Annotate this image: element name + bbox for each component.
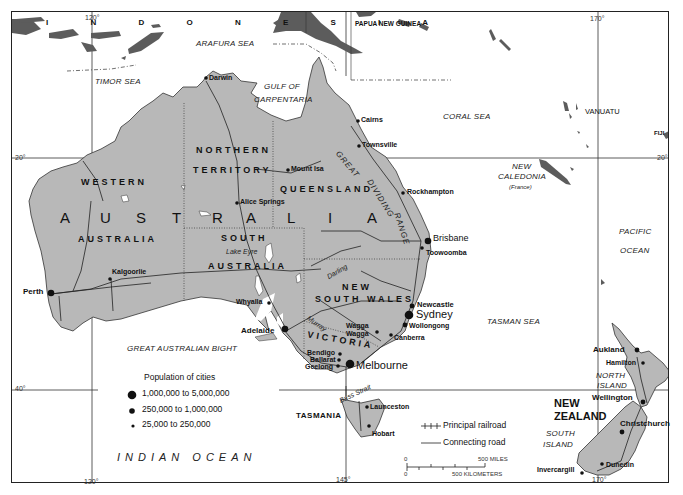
label-western-australia: AUSTRALIA xyxy=(78,235,157,244)
city-label-aukland: Aukland xyxy=(593,346,625,354)
city-label-townsville: Townsville xyxy=(362,141,397,148)
pacific-islands xyxy=(539,101,589,185)
label-australia-letter-5: R xyxy=(212,210,247,225)
city-label-wagga-2: Wagga xyxy=(346,330,369,337)
city-label-melbourne: Melbourne xyxy=(356,360,408,371)
label-timor-sea: TIMOR SEA xyxy=(95,78,141,86)
label-territory: TERRITORY xyxy=(193,166,272,175)
label-tasmania: TASMANIA xyxy=(296,412,342,420)
city-label-ballarat: Ballarat xyxy=(310,356,336,363)
label-arafura-sea: ARAFURA SEA xyxy=(196,40,254,48)
legend-road: Connecting road xyxy=(443,438,505,447)
city-label-geelong: Geelong xyxy=(305,363,333,370)
city-label-brisbane: Brisbane xyxy=(433,234,469,243)
label-australia-letter-4: T xyxy=(172,210,205,225)
label-south-island-2: ISLAND xyxy=(543,441,573,449)
label-pacific: PACIFIC xyxy=(619,228,651,236)
city-label-toowoomba: Toowoomba xyxy=(426,249,467,256)
label-western: WESTERN xyxy=(81,178,147,187)
label-lake-eyre: Lake Eyre xyxy=(226,248,258,255)
label-new-caledonia-2: CALEDONIA xyxy=(498,173,546,181)
city-label-perth: Perth xyxy=(23,288,43,296)
label-great-australian-bight: GREAT AUSTRALIAN BIGHT xyxy=(127,345,237,353)
label-australia-letter-3: S xyxy=(136,210,170,225)
city-label-adelaide: Adelaide xyxy=(241,327,274,335)
coord-170-bottom: 170° xyxy=(592,476,606,483)
city-label-wollongong: Wollongong xyxy=(409,322,449,329)
label-vanuatu: VANUATU xyxy=(585,108,620,116)
maritime-boundaries xyxy=(67,44,451,80)
city-label-sydney: Sydney xyxy=(416,309,453,320)
label-indian-ocean: INDIAN OCEAN xyxy=(117,452,256,463)
legend-item-small: 25,000 to 250,000 xyxy=(142,420,211,429)
label-coral-sea: CORAL SEA xyxy=(443,113,490,121)
scale-miles-end: 500 MILES xyxy=(478,456,508,462)
label-australia-letter-6: A xyxy=(246,210,280,225)
city-label-alice-springs: Alice Springs xyxy=(240,198,285,205)
coord-120-bottom: 120° xyxy=(84,478,98,485)
label-queensland: QUEENSLAND xyxy=(280,185,373,194)
label-fiji: FIJI xyxy=(654,130,664,136)
city-label-whyalla: Whyalla xyxy=(236,298,262,305)
legend-item-large: 1,000,000 to 5,000,000 xyxy=(142,389,229,398)
city-label-canberra: Canberra xyxy=(394,334,425,341)
coord-40-left: 40° xyxy=(15,385,26,392)
legend-title: Population of cities xyxy=(144,373,215,382)
label-new: NEW xyxy=(342,283,372,292)
label-new-zealand-2: ZEALAND xyxy=(554,410,607,422)
label-northern: NORTHERN xyxy=(196,146,271,155)
legend-item-medium: 250,000 to 1,000,000 xyxy=(142,405,222,414)
label-tasman-sea: TASMAN SEA xyxy=(487,318,540,326)
city-label-invercargill: Invercargill xyxy=(537,466,574,473)
label-ocean: OCEAN xyxy=(620,247,649,255)
label-new-zealand-1: NEW xyxy=(554,397,580,409)
city-label-wellington: Wellington xyxy=(592,394,633,402)
label-carpentaria: CARPENTARIA xyxy=(254,96,313,104)
city-label-bendigo: Bendigo xyxy=(307,349,335,356)
city-label-dunedin: Dunedin xyxy=(606,461,634,468)
label-gulf-of: GULF OF xyxy=(264,83,300,91)
city-label-cairns: Cairns xyxy=(361,116,383,123)
city-label-hamilton: Hamilton xyxy=(606,359,636,366)
city-label-hobart: Hobart xyxy=(372,430,395,437)
label-new-caledonia-1: NEW xyxy=(512,163,531,171)
city-label-kalgoorlie: Kalgoorlie xyxy=(112,268,146,275)
label-australia-letter-8: I xyxy=(328,210,356,225)
scale-bar xyxy=(407,463,485,471)
city-label-wagga-1: Wagga xyxy=(346,322,369,329)
label-south-island-1: SOUTH xyxy=(546,430,575,438)
legend-line-samples xyxy=(421,423,441,443)
city-label-rockhampton: Rockhampton xyxy=(407,188,454,195)
label-australia-letter-1: A xyxy=(60,210,94,225)
label-north-island-1: NORTH xyxy=(596,372,625,380)
label-new-caledonia-france: (France) xyxy=(509,184,532,190)
scale-km-end: 500 KILOMETERS xyxy=(452,471,502,477)
city-label-darwin: Darwin xyxy=(209,74,232,81)
label-australia-letter-7: L xyxy=(287,210,319,225)
city-label-launceston: Launceston xyxy=(370,403,409,410)
coord-120-top: 120° xyxy=(85,14,99,21)
coord-170-top: 170° xyxy=(590,15,604,22)
label-south: SOUTH xyxy=(221,234,268,243)
label-north-island-2: ISLAND xyxy=(597,382,627,390)
label-south-australia: AUSTRALIA xyxy=(208,262,287,271)
city-label-christchurch: Christchurch xyxy=(620,420,670,428)
coord-145-bottom: 145° xyxy=(336,476,350,483)
label-papua-new-guinea: PAPUA NEW GUINEA xyxy=(355,21,421,28)
coord-20-left: 20° xyxy=(15,154,26,161)
coord-20-right: 20° xyxy=(657,154,668,161)
legend-dots xyxy=(128,391,137,428)
scale-km-start: 0 xyxy=(404,471,407,477)
legend-railroad: Principal railroad xyxy=(443,421,506,430)
label-australia-letter-2: U xyxy=(100,210,135,225)
label-south-wales: SOUTH WALES xyxy=(315,295,414,304)
scale-miles-start: 0 xyxy=(404,456,407,462)
city-label-mount-isa: Mount Isa xyxy=(291,165,324,172)
